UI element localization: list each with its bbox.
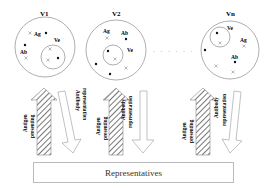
antibody-dot (216, 32, 218, 34)
antibody-representation-label: representation (221, 94, 227, 126)
ellipsis-dots: · · · · · · (153, 49, 195, 55)
antibody-dot (45, 32, 47, 34)
antibody-representation-label: Antibody (120, 99, 126, 120)
arrow-pair-vn: Antigen presenting Antibody representati… (181, 88, 242, 155)
ve-label: Ve (127, 47, 133, 53)
antibody-representation-label: representation (127, 96, 133, 128)
antibody-dot (109, 73, 111, 75)
ag-label: Ag (34, 31, 41, 37)
antigen-crosses (215, 42, 246, 74)
population-v1: Ve Ag Ab (15, 17, 75, 77)
antibody-representation-label: Antibody (75, 90, 81, 111)
antibody-representation-down-arrow (132, 91, 154, 153)
diagram-canvas: V1 V2 Vn Ve Ag Ab Ve Ag Ab (0, 0, 267, 188)
ve-label: Ve (54, 37, 60, 43)
antigen-presenting-label: presenting (188, 119, 194, 143)
antigen-presenting-label: presenting (29, 114, 35, 138)
antibody-dot (24, 44, 26, 46)
antibody-dot (125, 38, 127, 40)
ve-label: Ve (227, 25, 233, 31)
population-label-vn: Vn (226, 10, 235, 18)
ag-label: Ag (240, 37, 247, 43)
antibody-dot (107, 50, 109, 52)
ab-label: Ab (121, 30, 128, 36)
antibody-dot (57, 57, 59, 59)
antigen-presenting-label: Antigen (95, 117, 101, 135)
ab-label: Ab (20, 49, 27, 55)
arrow-pair-v1: Antigen presenting Antibody representati… (22, 88, 88, 155)
ag-label: Ag (103, 28, 110, 34)
representatives-box: Representatives (33, 162, 234, 183)
ve-subpopulation-circle (41, 45, 65, 69)
antigen-presenting-label: presenting (102, 116, 108, 140)
ve-subpopulation-circle (103, 45, 123, 65)
antibody-dot (204, 49, 206, 51)
ab-label: Ab (231, 54, 238, 60)
antibody-representation-label: Antibody (213, 97, 219, 118)
antigen-presenting-label: Antigen (22, 114, 28, 132)
population-v2: Ve Ag Ab (86, 20, 146, 80)
antigen-presenting-label: Antigen (181, 122, 187, 140)
population-vn: Ve Ag Ab (201, 21, 259, 79)
representatives-label: Representatives (105, 168, 162, 178)
antibody-dot (95, 63, 97, 65)
arrow-pair-v2: Antigen presenting Antibody representati… (95, 88, 154, 155)
antibody-representation-label: representation (82, 88, 88, 120)
population-label-v2: V2 (112, 10, 121, 18)
antibody-dot (234, 61, 236, 63)
